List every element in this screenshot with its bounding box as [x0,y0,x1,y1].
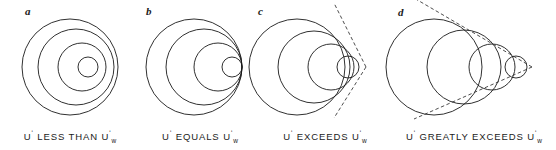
caption-u-prime: U [162,131,170,142]
caption-subscript: w [112,137,117,144]
panel-d-diagram [392,0,556,120]
panel-a-caption: Uʹ LESS THAN Uʹw [0,130,140,144]
mach-cone-line-upper [334,3,366,67]
wave-circle [337,56,359,78]
wave-circle [249,19,345,115]
caption-middle: LESS THAN U [34,131,110,142]
caption-u-prime: U [24,131,32,142]
caption-u-prime: U [406,131,414,142]
panel-c: c Uʹ EXCEEDS Uʹw [252,0,398,150]
wave-circle [278,31,350,103]
panel-d: d Uʹ GREATLY EXCEEDS Uʹw [392,0,556,150]
wave-circle [469,44,515,90]
wave-circle [58,43,106,91]
caption-subscript: w [233,137,238,144]
prime-mark: ʹ [360,130,362,137]
caption-u-prime: U [283,131,291,142]
wave-circle [505,56,527,78]
caption-subscript: w [362,137,367,144]
wave-circle [22,19,118,115]
wave-circle [166,29,242,105]
wave-circle [38,29,114,105]
panel-b-diagram [136,0,264,120]
panel-a-diagram [0,0,140,120]
prime-mark: ʹ [535,130,537,137]
wave-circle [427,30,501,104]
wave-circle [308,44,354,90]
caption-middle: GREATLY EXCEEDS U [416,131,535,142]
prime-mark: ʹ [231,130,233,137]
caption-middle: EXCEEDS U [293,131,360,142]
mach-cone-line-lower [414,67,532,119]
wave-propagation-figure: a Uʹ LESS THAN Uʹw b Uʹ EQUALS Uʹw c [0,0,556,150]
panel-a: a Uʹ LESS THAN Uʹw [0,0,140,150]
panel-b: b Uʹ EQUALS Uʹw [136,0,264,150]
wave-circle [194,43,242,91]
wave-circle [222,57,242,77]
wave-circle [78,57,98,77]
panel-c-caption: Uʹ EXCEEDS Uʹw [252,130,398,144]
wave-circle [386,19,482,115]
panel-c-diagram [252,0,398,120]
panel-d-caption: Uʹ GREATLY EXCEEDS Uʹw [392,130,556,144]
prime-mark: ʹ [109,130,111,137]
panel-b-caption: Uʹ EQUALS Uʹw [136,130,264,144]
mach-cone-line-upper [414,0,532,67]
caption-middle: EQUALS U [172,131,231,142]
caption-subscript: w [537,137,542,144]
